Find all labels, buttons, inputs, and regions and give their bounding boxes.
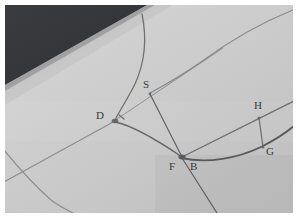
paper-texture-band-2 [155,155,293,213]
photo-canvas: D S H G F B [5,5,293,213]
point-label-g: G [266,145,274,157]
vertex-g-mark [262,146,265,149]
point-label-s: S [143,78,149,90]
vertex-f-mark [178,155,185,160]
point-label-f: F [169,160,175,172]
vertex-d-mark [112,119,119,123]
screenshot-root: D S H G F B [0,0,298,218]
vertex-s-mark [149,93,152,96]
vertex-h-mark [258,117,261,120]
paper-texture-band-1 [5,101,293,141]
point-label-d: D [96,109,104,121]
point-label-h: H [254,99,262,111]
geometry-drawing: D S H G F B [5,5,293,213]
point-label-b: B [190,160,197,172]
